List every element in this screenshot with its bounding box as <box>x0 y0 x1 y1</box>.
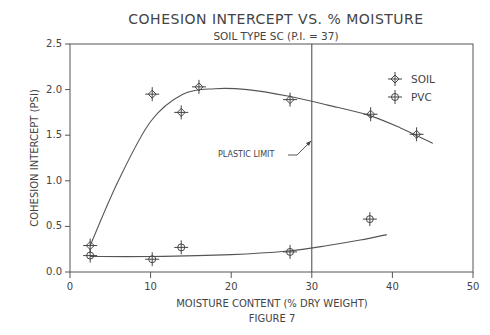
legend-marker-pvc <box>388 90 402 104</box>
y-tick-label: 1.0 <box>46 175 62 186</box>
data-point-soil <box>410 127 424 141</box>
data-point-soil <box>283 93 297 107</box>
y-axis-label: COHESION INTERCEPT (PSI) <box>29 89 40 227</box>
plastic-limit-label: PLASTIC LIMIT <box>218 150 274 159</box>
figure-caption: FIGURE 7 <box>249 313 296 324</box>
data-point-soil <box>174 105 188 119</box>
y-tick-label: 2.0 <box>46 84 62 95</box>
x-tick-label: 10 <box>144 281 157 292</box>
chart-subtitle: SOIL TYPE SC (P.I. = 37) <box>213 30 338 42</box>
y-tick-label: 0.0 <box>46 266 62 277</box>
data-point-soil <box>192 80 206 94</box>
chart: COHESION INTERCEPT VS. % MOISTURE SOIL T… <box>0 0 490 335</box>
plastic-limit-line <box>288 44 312 272</box>
data-point-pvc <box>145 252 159 266</box>
x-tick-label: 30 <box>305 281 318 292</box>
y-tick-label: 0.5 <box>46 220 62 231</box>
x-tick-label: 50 <box>467 281 480 292</box>
y-axis: 0.00.51.01.52.02.5 <box>46 38 70 277</box>
x-tick-label: 40 <box>386 281 399 292</box>
data-point-pvc <box>283 245 297 259</box>
y-tick-label: 2.5 <box>46 38 62 49</box>
series-layer <box>83 80 433 266</box>
legend-label-soil: SOIL <box>411 73 435 85</box>
data-point-pvc <box>83 249 97 263</box>
x-axis-label: MOISTURE CONTENT (% DRY WEIGHT) <box>176 298 368 309</box>
data-point-soil <box>364 107 378 121</box>
x-tick-label: 0 <box>67 281 73 292</box>
x-tick-label: 20 <box>225 281 238 292</box>
chart-title: COHESION INTERCEPT VS. % MOISTURE <box>128 11 423 27</box>
data-point-soil <box>145 87 159 101</box>
legend: SOILPVC <box>388 72 435 104</box>
legend-marker-soil <box>388 72 402 86</box>
fit-curve-soil <box>90 88 433 245</box>
data-point-pvc <box>174 240 188 254</box>
data-point-pvc <box>363 212 377 226</box>
series-soil <box>83 80 433 253</box>
y-tick-label: 1.5 <box>46 129 62 140</box>
legend-label-pvc: PVC <box>411 91 432 103</box>
series-pvc <box>83 212 387 266</box>
fit-curve-pvc <box>90 235 387 257</box>
x-axis: 01020304050 <box>67 272 480 292</box>
